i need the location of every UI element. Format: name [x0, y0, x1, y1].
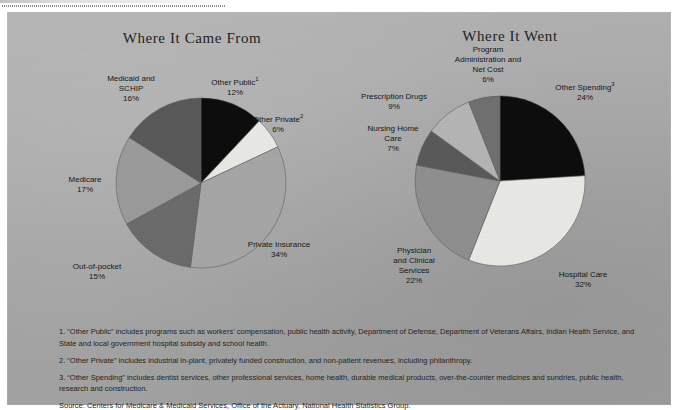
- pie-label-other-spending: Other Spending3 24%: [537, 79, 633, 103]
- pie-label-medicare-name: Medicare: [69, 175, 102, 184]
- pie-label-medicaid-schip-pct: 16%: [90, 94, 172, 104]
- footnotes-block: 1. “Other Public” includes programs such…: [59, 326, 659, 410]
- pie-label-medicare-pct: 17%: [53, 185, 117, 195]
- pie-label-hospital-care: Hospital Care 32%: [537, 270, 629, 290]
- footnote-2: 2. “Other Private” includes industrial i…: [59, 355, 639, 367]
- scan-artifact-strip: [0, 0, 216, 3]
- pie-label-private-insurance-name: Private Insurance: [248, 240, 310, 249]
- figure-panel: Where It Came From Other Public1 12% Oth…: [7, 12, 671, 405]
- pie-label-out-of-pocket-pct: 15%: [55, 272, 139, 282]
- pie-label-private-insurance-pct: 34%: [237, 250, 321, 260]
- pie-label-other-spending-name: Other Spending: [555, 83, 611, 92]
- pie-label-program-administration-line1: Program: [473, 45, 504, 54]
- pie-label-nursing-home-care-line1: Nursing Home: [367, 124, 418, 133]
- pie-label-other-spending-pct: 24%: [537, 93, 633, 103]
- pie-label-other-public-name: Other Public: [211, 78, 255, 87]
- footnote-1: 1. “Other Public” includes programs such…: [59, 326, 639, 349]
- pie-label-physician-clinical-line3: Services: [369, 266, 459, 276]
- pie-label-hospital-care-name: Hospital Care: [559, 270, 607, 279]
- pie-label-medicare: Medicare 17%: [53, 175, 117, 195]
- pie-label-other-private-pct: 6%: [238, 125, 318, 135]
- footnote-ref-2: 2: [300, 113, 303, 119]
- pie-label-physician-clinical-line2: and Clinical: [369, 256, 459, 266]
- footnote-3: 3. “Other Spending” includes dentist ser…: [59, 372, 639, 395]
- footnote-ref-1: 1: [255, 76, 258, 82]
- pie-label-out-of-pocket: Out-of-pocket 15%: [55, 262, 139, 282]
- pie-label-other-private-name: Other Private: [253, 115, 300, 124]
- chart-title-left: Where It Came From: [67, 30, 317, 47]
- pie-label-other-public: Other Public1 12%: [193, 74, 277, 98]
- pie-slice-other-spending: [500, 96, 585, 181]
- pie-label-medicaid-schip-line2: SCHIP: [90, 84, 172, 94]
- pie-label-hospital-care-pct: 32%: [537, 280, 629, 290]
- footnote-ref-3: 3: [611, 81, 614, 87]
- pie-label-medicaid-schip-line1: Medicaid and: [107, 74, 155, 83]
- pie-label-other-private: Other Private2 6%: [238, 111, 318, 135]
- chart-title-right: Where It Went: [385, 28, 635, 45]
- pie-label-prescription-drugs-name: Prescription Drugs: [361, 92, 427, 101]
- pie-label-private-insurance: Private Insurance 34%: [237, 240, 321, 260]
- pie-label-physician-clinical: Physician and Clinical Services 22%: [369, 246, 459, 286]
- pie-label-program-administration-line3: Net Cost: [432, 65, 544, 75]
- pie-label-program-administration-line2: Administration and: [432, 55, 544, 65]
- pie-label-physician-clinical-pct: 22%: [369, 276, 459, 286]
- pie-svg-right: [410, 91, 590, 271]
- pie-label-out-of-pocket-name: Out-of-pocket: [73, 262, 121, 271]
- dotted-rule: [2, 5, 225, 7]
- pie-chart-where-it-went: [410, 91, 590, 271]
- pie-label-nursing-home-care: Nursing Home Care 7%: [348, 124, 438, 154]
- pie-label-prescription-drugs-pct: 9%: [340, 102, 448, 112]
- pie-label-program-administration-pct: 6%: [432, 75, 544, 85]
- pie-label-medicaid-schip: Medicaid and SCHIP 16%: [90, 74, 172, 104]
- pie-label-prescription-drugs: Prescription Drugs 9%: [340, 92, 448, 112]
- pie-label-program-administration: Program Administration and Net Cost 6%: [432, 45, 544, 85]
- pie-label-nursing-home-care-pct: 7%: [348, 144, 438, 154]
- pie-label-other-public-pct: 12%: [193, 88, 277, 98]
- pie-label-physician-clinical-line1: Physician: [397, 246, 431, 255]
- source-line: Source: Centers for Medicare & Medicaid …: [59, 400, 659, 410]
- pie-label-nursing-home-care-line2: Care: [348, 134, 438, 144]
